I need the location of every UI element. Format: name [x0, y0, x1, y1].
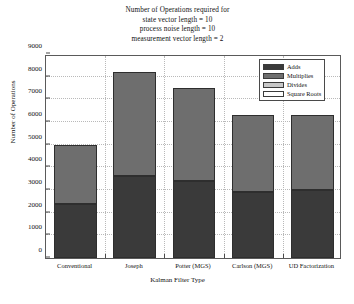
legend-item-adds: Adds — [263, 62, 321, 71]
legend-item-multiplies: Multiplies — [263, 71, 321, 80]
y-axis-tick-mark — [46, 53, 50, 54]
y-axis-tick-label: 4000 — [28, 155, 46, 163]
x-axis-tick-label: Potter (MGS) — [175, 262, 211, 269]
legend-label: Divides — [287, 81, 307, 88]
x-axis-tick-label: Joseph — [125, 262, 143, 269]
y-axis-label: Number of Operations — [9, 52, 17, 172]
chart-title-line-3: process noise length = 10 — [45, 25, 310, 35]
chart-title-line-4: measurement vector length = 2 — [45, 35, 310, 45]
legend-label: Multiplies — [287, 72, 313, 79]
x-axis-label: Kalman Filter Type — [45, 276, 310, 284]
legend-swatch-icon — [263, 73, 284, 79]
y-axis-tick-label: 1000 — [28, 223, 46, 231]
x-axis-tick-mark — [164, 254, 165, 258]
legend-swatch-icon — [263, 64, 284, 70]
chart-legend: AddsMultipliesDividesSquare Roots — [259, 59, 325, 101]
legend-swatch-icon — [263, 91, 284, 97]
bar-chart: Number of Operations required for state … — [0, 0, 354, 304]
y-axis-tick-label: 6000 — [28, 110, 46, 118]
chart-title-line-1: Number of Operations required for — [45, 6, 310, 16]
y-axis-tick-label: 9000 — [28, 42, 46, 50]
y-axis-tick-label: 0 — [39, 246, 47, 254]
x-axis-tick-mark — [105, 254, 106, 258]
legend-swatch-icon — [263, 82, 284, 88]
x-axis-tick-mark — [224, 254, 225, 258]
legend-label: Adds — [287, 63, 301, 70]
chart-title-line-2: state vector length = 10 — [45, 16, 310, 26]
x-axis-tick-label: Conventional — [57, 262, 92, 269]
x-axis-tick-label: UD Factorization — [289, 262, 334, 269]
x-axis-tick-mark — [283, 254, 284, 258]
y-axis-tick-label: 5000 — [28, 133, 46, 141]
y-axis-tick-label: 8000 — [28, 65, 46, 73]
legend-item-square-roots: Square Roots — [263, 89, 321, 98]
legend-item-divides: Divides — [263, 80, 321, 89]
legend-label: Square Roots — [287, 90, 321, 97]
y-axis-tick-label: 3000 — [28, 178, 46, 186]
y-axis-tick-label: 7000 — [28, 87, 46, 95]
y-axis-tick-label: 2000 — [28, 201, 46, 209]
chart-title: Number of Operations required for state … — [45, 6, 310, 44]
x-axis-tick-label: Carlson (MGS) — [232, 262, 272, 269]
